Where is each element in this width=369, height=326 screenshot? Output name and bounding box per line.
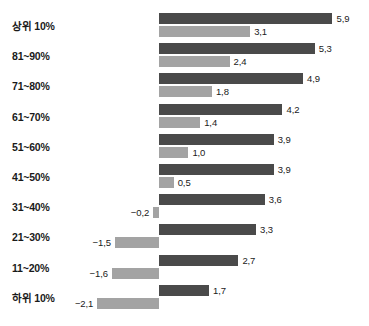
- bar-series-dark-3: [159, 104, 282, 115]
- bar-series-dark-0: [159, 13, 332, 24]
- bar-series-light-4: [159, 147, 188, 158]
- value-label-series-dark-4: 3,9: [278, 134, 291, 145]
- bar-series-light-7: [115, 237, 159, 248]
- value-label-series-light-2: 1,8: [216, 86, 229, 97]
- value-label-series-dark-8: 2,7: [242, 255, 255, 266]
- value-label-series-dark-6: 3,6: [269, 194, 282, 205]
- value-label-series-light-8: −1,6: [90, 268, 108, 279]
- value-label-series-dark-3: 4,2: [286, 104, 299, 115]
- value-label-series-light-0: 3,1: [254, 26, 267, 37]
- value-label-series-light-6: −0,2: [131, 207, 149, 218]
- bar-series-dark-6: [159, 194, 265, 205]
- value-label-series-light-4: 1,0: [192, 147, 205, 158]
- bar-series-light-9: [97, 298, 159, 309]
- bar-series-light-6: [153, 207, 159, 218]
- plot-area: 5,93,15,32,44,91,84,21,43,91,03,90,53,6−…: [0, 0, 369, 326]
- bar-series-dark-5: [159, 164, 274, 175]
- bar-series-light-8: [112, 268, 159, 279]
- bar-series-dark-9: [159, 285, 209, 296]
- value-label-series-light-5: 0,5: [178, 177, 191, 188]
- value-label-series-dark-5: 3,9: [278, 164, 291, 175]
- decile-bar-chart: 상위 10%81~90%71~80%61~70%51~60%41~50%31~4…: [0, 0, 369, 326]
- value-label-series-dark-1: 5,3: [319, 43, 332, 54]
- bar-series-dark-8: [159, 255, 238, 266]
- bar-series-dark-7: [159, 224, 256, 235]
- value-label-series-dark-0: 5,9: [336, 13, 349, 24]
- bar-series-light-3: [159, 117, 200, 128]
- bar-series-light-2: [159, 86, 212, 97]
- bar-series-dark-4: [159, 134, 274, 145]
- value-label-series-light-9: −2,1: [75, 298, 93, 309]
- value-label-series-dark-9: 1,7: [213, 285, 226, 296]
- value-label-series-light-1: 2,4: [234, 56, 247, 67]
- value-label-series-dark-7: 3,3: [260, 224, 273, 235]
- value-label-series-light-7: −1,5: [93, 237, 111, 248]
- value-label-series-dark-2: 4,9: [307, 73, 320, 84]
- bar-series-dark-2: [159, 73, 303, 84]
- bar-series-light-1: [159, 56, 230, 67]
- value-label-series-light-3: 1,4: [204, 117, 217, 128]
- bar-series-light-0: [159, 26, 250, 37]
- bar-series-dark-1: [159, 43, 315, 54]
- bar-series-light-5: [159, 177, 174, 188]
